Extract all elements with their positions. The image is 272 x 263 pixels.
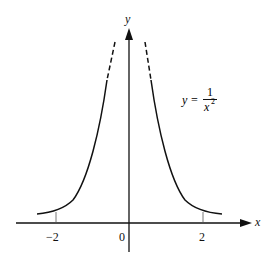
x-axis-arrow-icon bbox=[240, 219, 252, 227]
tick-label-0: 0 bbox=[119, 230, 125, 245]
curve-left-dashed bbox=[107, 42, 115, 80]
y-axis-arrow-icon bbox=[125, 28, 133, 40]
eq-lhs: y = bbox=[182, 93, 198, 108]
tick-label-neg2: −2 bbox=[46, 230, 59, 245]
curve-left bbox=[37, 80, 107, 214]
eq-denominator: x bbox=[204, 100, 209, 115]
x-axis-label: x bbox=[255, 215, 260, 230]
curve-right-dashed bbox=[145, 42, 151, 80]
y-axis-label: y bbox=[125, 12, 130, 27]
plot-area bbox=[0, 0, 272, 263]
tick-label-2: 2 bbox=[199, 230, 205, 245]
